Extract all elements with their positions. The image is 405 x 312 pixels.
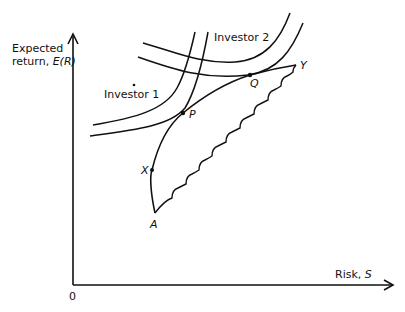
point-y-label: Y	[300, 59, 307, 72]
x-axis-symbol: S	[365, 268, 372, 281]
y-axis-label: Expected return, E(R)	[12, 42, 76, 68]
x-axis-label: Risk, S	[335, 268, 372, 281]
investor2-label: Investor 2	[214, 31, 269, 44]
axes	[68, 34, 393, 290]
investor2-indifference-curves	[138, 13, 303, 76]
opportunity-set-boundary	[155, 65, 296, 213]
point-p-label: P	[189, 108, 196, 121]
origin-label: 0	[69, 290, 76, 303]
point-q-label: Q	[250, 77, 259, 90]
y-axis-label-line1: Expected	[12, 42, 76, 55]
point-x-marker	[150, 168, 154, 172]
point-p-marker	[181, 111, 185, 115]
point-x-label: X	[141, 164, 149, 177]
y-axis-label-prefix: return,	[12, 55, 53, 68]
efficient-frontier	[151, 65, 296, 213]
y-axis-symbol: E(R)	[53, 55, 76, 68]
investor1-curve-upper	[93, 32, 195, 125]
investor1-label: Investor 1	[104, 88, 159, 101]
point-a-label: A	[150, 218, 158, 231]
x-axis-label-prefix: Risk,	[335, 268, 365, 281]
investor1-dot	[133, 84, 136, 87]
y-axis-label-line2: return, E(R)	[12, 55, 76, 68]
